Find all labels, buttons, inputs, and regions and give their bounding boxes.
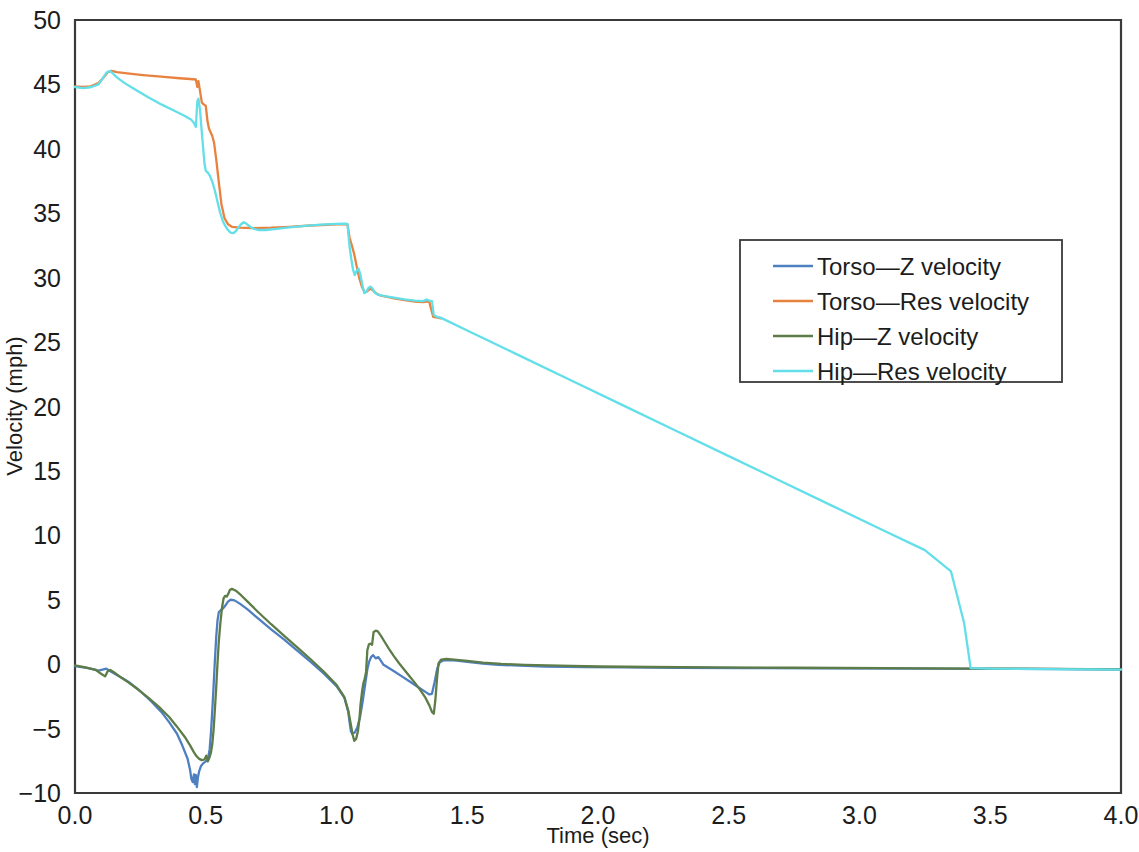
x-tick-label: 3.5 xyxy=(973,801,1008,829)
y-tick-label: 0 xyxy=(47,650,61,678)
x-tick-label: 1.0 xyxy=(319,801,354,829)
legend-entry-label: Torso—Z velocity xyxy=(817,253,1001,280)
x-tick-label: 3.0 xyxy=(842,801,877,829)
y-tick-label: 25 xyxy=(33,328,61,356)
x-tick-label: 1.5 xyxy=(450,801,485,829)
y-tick-label: −10 xyxy=(19,779,61,807)
y-tick-label: 35 xyxy=(33,199,61,227)
y-tick-label: 20 xyxy=(33,393,61,421)
legend-entry-label: Hip—Z velocity xyxy=(817,323,978,350)
y-tick-label: 30 xyxy=(33,264,61,292)
x-tick-label: 4.0 xyxy=(1104,801,1139,829)
y-tick-label: 10 xyxy=(33,521,61,549)
y-tick-label: 50 xyxy=(33,6,61,34)
chart-canvas: −10−505101520253035404550 0.00.51.01.52.… xyxy=(0,0,1139,852)
x-tick-label: 0.5 xyxy=(188,801,223,829)
y-tick-label: 15 xyxy=(33,457,61,485)
y-tick-label: 45 xyxy=(33,70,61,98)
x-tick-label: 0.0 xyxy=(58,801,93,829)
x-tick-label: 2.5 xyxy=(711,801,746,829)
legend-entry-label: Torso—Res velocity xyxy=(817,288,1029,315)
y-tick-label: 5 xyxy=(47,586,61,614)
x-axis-title: Time (sec) xyxy=(546,823,649,848)
y-tick-label: −5 xyxy=(32,715,61,743)
chart-legend: Torso—Z velocityTorso—Res velocityHip—Z … xyxy=(740,240,1062,385)
y-axis-title: Velocity (mph) xyxy=(2,336,27,475)
velocity-time-chart: −10−505101520253035404550 0.00.51.01.52.… xyxy=(0,0,1139,852)
legend-entry-label: Hip—Res velocity xyxy=(817,358,1006,385)
y-tick-label: 40 xyxy=(33,135,61,163)
